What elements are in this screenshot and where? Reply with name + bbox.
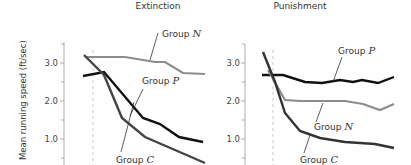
y-axis-ticks [241, 44, 245, 158]
leader-group-n [316, 103, 323, 122]
label-group-c: GroupC [116, 154, 154, 165]
y-tick-3: 3.0 [44, 58, 58, 68]
label-group-n: GroupN [314, 121, 354, 132]
line-group-p [262, 75, 394, 83]
y-axis-label: Mean running speed (ft/sec) [18, 40, 28, 160]
y-tick-2: 2.0 [44, 96, 58, 106]
label-group-n: GroupN [162, 28, 202, 39]
panel-extinction: Extinction Mean running speed (ft/sec) 3… [18, 1, 205, 165]
panel-title-punishment: Punishment [273, 1, 327, 11]
y-tick-2: 2.0 [226, 96, 240, 106]
figure: Extinction Mean running speed (ft/sec) 3… [0, 0, 411, 165]
leader-group-c [304, 135, 310, 153]
panel-punishment: Punishment 3.0 2.0 1.0 GroupP GroupN Gro… [226, 1, 394, 165]
y-tick-1: 1.0 [226, 134, 240, 144]
label-group-p: GroupP [142, 75, 179, 86]
label-group-c: GroupC [300, 154, 338, 165]
leader-group-p [333, 57, 342, 82]
panel-title-extinction: Extinction [136, 1, 181, 11]
label-group-p: GroupP [338, 45, 375, 56]
y-tick-3: 3.0 [226, 58, 240, 68]
y-axis-ticks [60, 44, 64, 158]
y-tick-1: 1.0 [44, 134, 58, 144]
leader-group-n [150, 33, 158, 60]
